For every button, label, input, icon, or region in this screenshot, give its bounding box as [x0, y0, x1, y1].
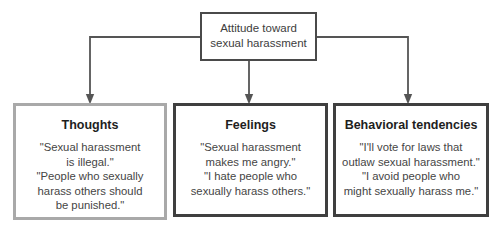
- thoughts-line: is illegal.": [66, 156, 113, 168]
- behavioral-line: outlaw sexual harassment.": [342, 156, 480, 168]
- behavioral-line: "I avoid people who: [362, 170, 460, 182]
- behavioral-line: might sexually harass me.": [344, 185, 479, 197]
- behavioral-tendencies-box: Behavioral tendencies "I'll vote for law…: [333, 103, 489, 217]
- thoughts-line: "People who sexually: [36, 170, 143, 182]
- thoughts-line: be punished.": [56, 199, 125, 211]
- thoughts-title: Thoughts: [16, 118, 164, 132]
- thoughts-line: harass others should: [38, 185, 143, 197]
- feelings-title: Feelings: [176, 118, 325, 132]
- behavioral-tendencies-text: "I'll vote for laws that outlaw sexual h…: [336, 140, 486, 198]
- thoughts-line: "Sexual harassment: [40, 141, 141, 153]
- arrow-to-thoughts: [90, 37, 200, 99]
- attitude-root-box: Attitude toward sexual harassment: [200, 12, 317, 61]
- behavioral-tendencies-title: Behavioral tendencies: [336, 118, 486, 132]
- thoughts-text: "Sexual harassment is illegal." "People …: [16, 140, 164, 213]
- feelings-line: makes me angry.": [206, 156, 296, 168]
- behavioral-line: "I'll vote for laws that: [360, 141, 463, 153]
- feelings-text: "Sexual harassment makes me angry." "I h…: [176, 140, 325, 198]
- root-label-line2: sexual harassment: [202, 36, 315, 51]
- feelings-line: sexually harass others.": [191, 185, 311, 197]
- feelings-line: "I hate people who: [204, 170, 297, 182]
- feelings-line: "Sexual harassment: [200, 141, 301, 153]
- arrow-to-behavior: [317, 37, 408, 99]
- feelings-box: Feelings "Sexual harassment makes me ang…: [173, 103, 328, 217]
- root-label-line1: Attitude toward: [202, 21, 315, 36]
- thoughts-box: Thoughts "Sexual harassment is illegal."…: [13, 103, 167, 220]
